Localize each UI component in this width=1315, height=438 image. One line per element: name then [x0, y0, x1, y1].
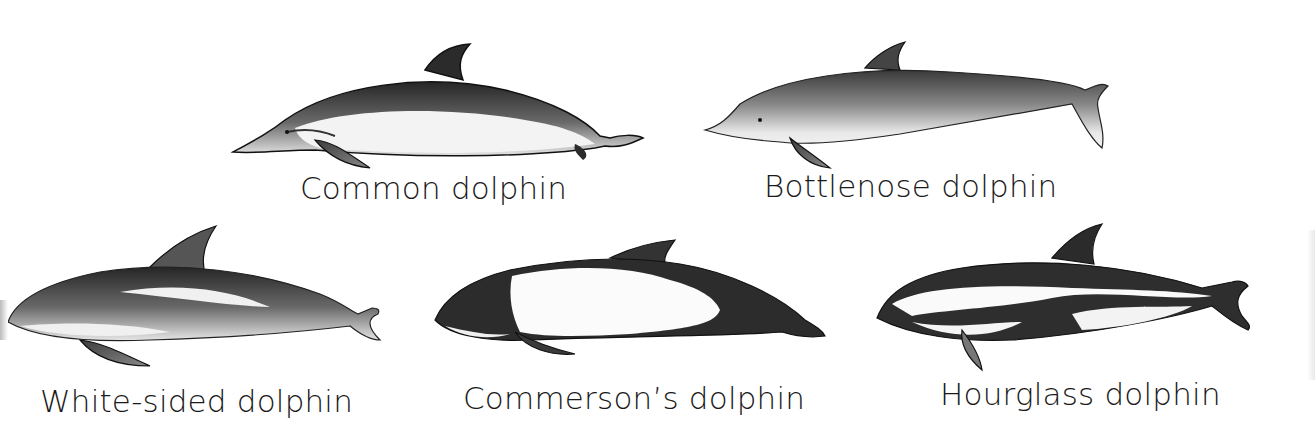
- bottlenose-dolphin-illustration: [700, 38, 1110, 173]
- common-dolphin-label: Common dolphin: [300, 170, 567, 206]
- commersons-dolphin-illustration: [430, 236, 830, 361]
- page-edge-left: [0, 300, 8, 340]
- hourglass-dolphin-illustration: [872, 218, 1272, 373]
- page-edge-shadow: [1307, 230, 1315, 380]
- common-dolphin-illustration: [225, 40, 650, 175]
- hourglass-dolphin-label: Hourglass dolphin: [940, 376, 1221, 412]
- white-sided-dolphin-illustration: [0, 222, 395, 372]
- white-sided-dolphin-label: White-sided dolphin: [40, 383, 353, 419]
- bottlenose-dolphin-label: Bottlenose dolphin: [764, 168, 1057, 204]
- commersons-dolphin-label: Commerson’s dolphin: [463, 380, 805, 416]
